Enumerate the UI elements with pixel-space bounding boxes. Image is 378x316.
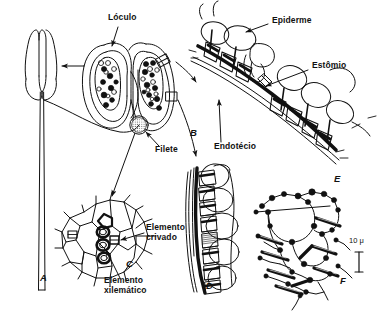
scale-bar	[355, 252, 363, 272]
label-elemento-crivado: Elemento crivado	[146, 223, 185, 242]
leader-bundle-to-c	[112, 133, 135, 196]
panel-letter-a: A	[40, 272, 47, 283]
panel-a-stamen	[25, 30, 57, 290]
label-elemento-xilematico: Elemento xilemático	[104, 276, 147, 295]
panel-letter-c: C	[126, 258, 133, 269]
panel-letter-e: E	[334, 173, 340, 184]
panel-f-thickenings	[254, 189, 352, 310]
figure-artwork	[0, 0, 378, 316]
panel-c-vascular-bundle	[55, 192, 156, 286]
panel-d-endothecium	[186, 162, 239, 294]
panel-letter-b: B	[190, 127, 197, 138]
botanical-figure: Lóculo Epiderme Estômio Endotécio Filete…	[0, 0, 378, 316]
leader-b-to-e	[176, 62, 196, 82]
label-loculo: Lóculo	[108, 13, 136, 23]
panel-b-anther-section	[42, 43, 177, 136]
label-filete: Filete	[155, 145, 178, 155]
scale-bar-label: 10 μ	[349, 236, 364, 245]
label-epiderme: Epiderme	[272, 16, 312, 26]
label-endotecio: Endotécio	[214, 142, 256, 152]
label-estomio: Estômio	[312, 61, 346, 71]
panel-letter-f: F	[340, 275, 346, 286]
panel-letter-d: D	[206, 280, 213, 291]
